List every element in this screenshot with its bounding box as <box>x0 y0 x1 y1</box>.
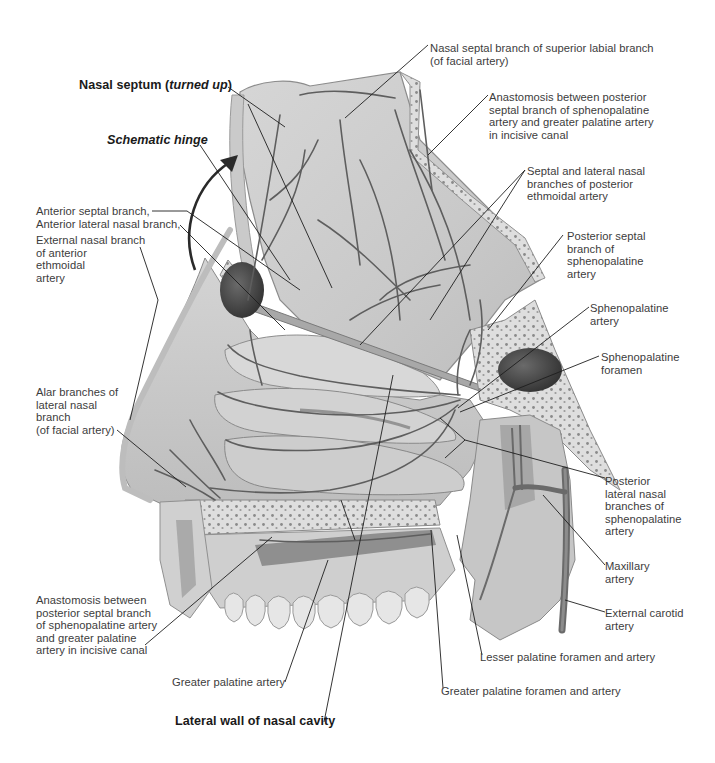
label-nasal-septal-branch-superior-labial: Nasal septal branch of superior labial b… <box>430 42 654 67</box>
label-schematic-hinge: Schematic hinge <box>107 134 208 147</box>
label-anastomosis-right: Anastomosis between posterior septal bra… <box>489 91 654 141</box>
label-greater-palatine-artery: Greater palatine artery <box>172 676 285 689</box>
label-posterior-septal-branch: Posterior septal branch of sphenopalatin… <box>567 230 646 280</box>
label-nasal-septum: Nasal septum (turned up) <box>79 79 232 92</box>
label-lateral-wall: Lateral wall of nasal cavity <box>175 715 335 728</box>
label-external-nasal-branch: External nasal branch of anterior ethmoi… <box>36 234 145 284</box>
label-anterior-lateral-nasal-branch: Anterior lateral nasal branch, <box>36 218 181 231</box>
label-sphenopalatine-artery: Sphenopalatine artery <box>590 302 668 327</box>
label-anterior-septal-branch: Anterior septal branch, <box>36 205 150 218</box>
label-maxillary-artery: Maxillary artery <box>605 560 650 585</box>
label-septal-lateral-nasal-posterior-ethmoidal: Septal and lateral nasal branches of pos… <box>527 165 645 203</box>
label-lesser-palatine-foramen: Lesser palatine foramen and artery <box>480 651 655 664</box>
label-sphenopalatine-foramen: Sphenopalatine foramen <box>601 351 679 376</box>
frontal-sinus <box>220 262 264 318</box>
maxilla-and-teeth <box>160 500 455 629</box>
label-alar-branches: Alar branches of lateral nasal branch (o… <box>36 386 118 436</box>
pterygopalatine-region <box>460 415 575 640</box>
label-anastomosis-left: Anastomosis between posterior septal bra… <box>36 594 157 657</box>
label-greater-palatine-foramen: Greater palatine foramen and artery <box>441 685 621 698</box>
nasal-cavity-arteries-figure: Nasal septum (turned up) Schematic hinge… <box>0 0 715 763</box>
label-external-carotid-artery: External carotid artery <box>605 607 684 632</box>
label-posterior-lateral-nasal-branches: Posterior lateral nasal branches of sphe… <box>605 475 682 538</box>
